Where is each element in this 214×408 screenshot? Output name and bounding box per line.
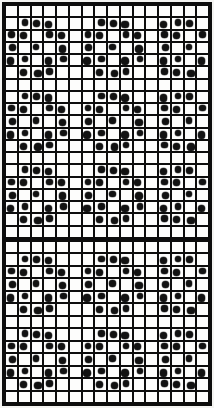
grid-cell bbox=[95, 55, 106, 65]
grid-cell bbox=[19, 190, 30, 200]
grid-cell bbox=[19, 141, 30, 151]
grid-cell bbox=[70, 67, 81, 77]
grid-cell bbox=[108, 55, 119, 65]
pattern-dot bbox=[134, 32, 141, 39]
grid-cell bbox=[108, 354, 119, 364]
pattern-dot bbox=[8, 343, 14, 349]
grid-cell bbox=[185, 55, 196, 65]
pattern-dot bbox=[109, 44, 115, 50]
pattern-dot bbox=[121, 332, 129, 340]
grid-cell bbox=[121, 329, 132, 339]
grid-cell bbox=[146, 18, 157, 28]
pattern-dot bbox=[199, 179, 205, 185]
grid-cell bbox=[146, 55, 157, 65]
grid-cell bbox=[57, 67, 68, 77]
grid-cell bbox=[57, 153, 68, 163]
grid-cell bbox=[146, 329, 157, 339]
grid-cell bbox=[108, 202, 119, 212]
grid-cell bbox=[172, 392, 183, 402]
grid-cell bbox=[70, 354, 81, 364]
pattern-dot bbox=[60, 130, 66, 136]
pattern-dot bbox=[46, 343, 52, 349]
pattern-dot bbox=[33, 167, 40, 174]
grid-cell bbox=[159, 214, 170, 224]
grid-cell bbox=[6, 379, 17, 389]
grid-cell bbox=[134, 116, 145, 126]
grid-cell bbox=[185, 267, 196, 277]
grid-cell bbox=[57, 80, 68, 90]
grid-cell bbox=[83, 354, 94, 364]
pattern-dot bbox=[161, 31, 167, 37]
grid-cell bbox=[70, 342, 81, 352]
grid-cell bbox=[121, 342, 132, 352]
grid-cell bbox=[134, 31, 145, 41]
grid-cell bbox=[44, 178, 55, 188]
grid-cell bbox=[83, 129, 94, 139]
grid-cell bbox=[197, 379, 208, 389]
grid-cell bbox=[134, 67, 145, 77]
pattern-dot bbox=[59, 357, 67, 365]
pattern-dot bbox=[98, 256, 104, 262]
pattern-dot bbox=[123, 142, 129, 148]
grid-cell bbox=[70, 227, 81, 237]
grid-cell bbox=[19, 292, 30, 302]
pattern-dot bbox=[173, 306, 180, 313]
grid-cell bbox=[57, 55, 68, 65]
pattern-dot bbox=[34, 307, 42, 315]
pattern-dot bbox=[60, 368, 66, 374]
grid-cell bbox=[83, 214, 94, 224]
pattern-dot bbox=[9, 118, 16, 125]
grid-cell bbox=[83, 31, 94, 41]
pattern-dot bbox=[110, 331, 117, 338]
grid-cell bbox=[44, 292, 55, 302]
pattern-chart-board bbox=[2, 2, 212, 406]
grid-cell bbox=[70, 104, 81, 114]
pattern-dot bbox=[198, 294, 206, 302]
grid-cell bbox=[108, 392, 119, 402]
grid-cell bbox=[6, 227, 17, 237]
pattern-dot bbox=[85, 105, 91, 111]
grid-cell bbox=[172, 214, 183, 224]
grid-cell bbox=[108, 67, 119, 77]
pattern-dot bbox=[123, 380, 129, 386]
pattern-dot bbox=[96, 106, 103, 113]
pattern-dot bbox=[160, 257, 168, 265]
grid-cell bbox=[172, 153, 183, 163]
grid-cell bbox=[159, 254, 170, 264]
pattern-dot bbox=[111, 382, 119, 390]
grid-cell bbox=[70, 317, 81, 327]
grid-cell bbox=[159, 55, 170, 65]
grid-cell bbox=[70, 116, 81, 126]
grid-cell bbox=[121, 304, 132, 314]
grid-cell bbox=[108, 178, 119, 188]
grid-cell bbox=[95, 178, 106, 188]
grid-cell bbox=[121, 279, 132, 289]
pattern-dot bbox=[98, 19, 104, 25]
pattern-dot bbox=[46, 305, 52, 311]
grid-cell bbox=[6, 116, 17, 126]
grid-cell bbox=[57, 342, 68, 352]
grid-cell bbox=[32, 43, 43, 53]
chart-grid-top-section bbox=[6, 6, 208, 237]
grid-cell bbox=[95, 354, 106, 364]
grid-cell bbox=[185, 104, 196, 114]
grid-cell bbox=[70, 292, 81, 302]
grid-cell bbox=[146, 43, 157, 53]
pattern-dot bbox=[175, 368, 181, 374]
grid-cell bbox=[134, 80, 145, 90]
pattern-dot bbox=[58, 343, 65, 350]
grid-cell bbox=[172, 116, 183, 126]
pattern-sheet bbox=[0, 0, 214, 408]
grid-cell bbox=[32, 104, 43, 114]
pattern-dot bbox=[33, 44, 39, 50]
grid-cell bbox=[70, 279, 81, 289]
grid-cell bbox=[185, 367, 196, 377]
grid-cell bbox=[83, 178, 94, 188]
grid-cell bbox=[19, 165, 30, 175]
grid-cell bbox=[172, 55, 183, 65]
grid-cell bbox=[19, 329, 30, 339]
pattern-dot bbox=[85, 44, 92, 51]
pattern-dot bbox=[134, 269, 141, 276]
grid-cell bbox=[121, 202, 132, 212]
pattern-dot bbox=[173, 216, 180, 223]
